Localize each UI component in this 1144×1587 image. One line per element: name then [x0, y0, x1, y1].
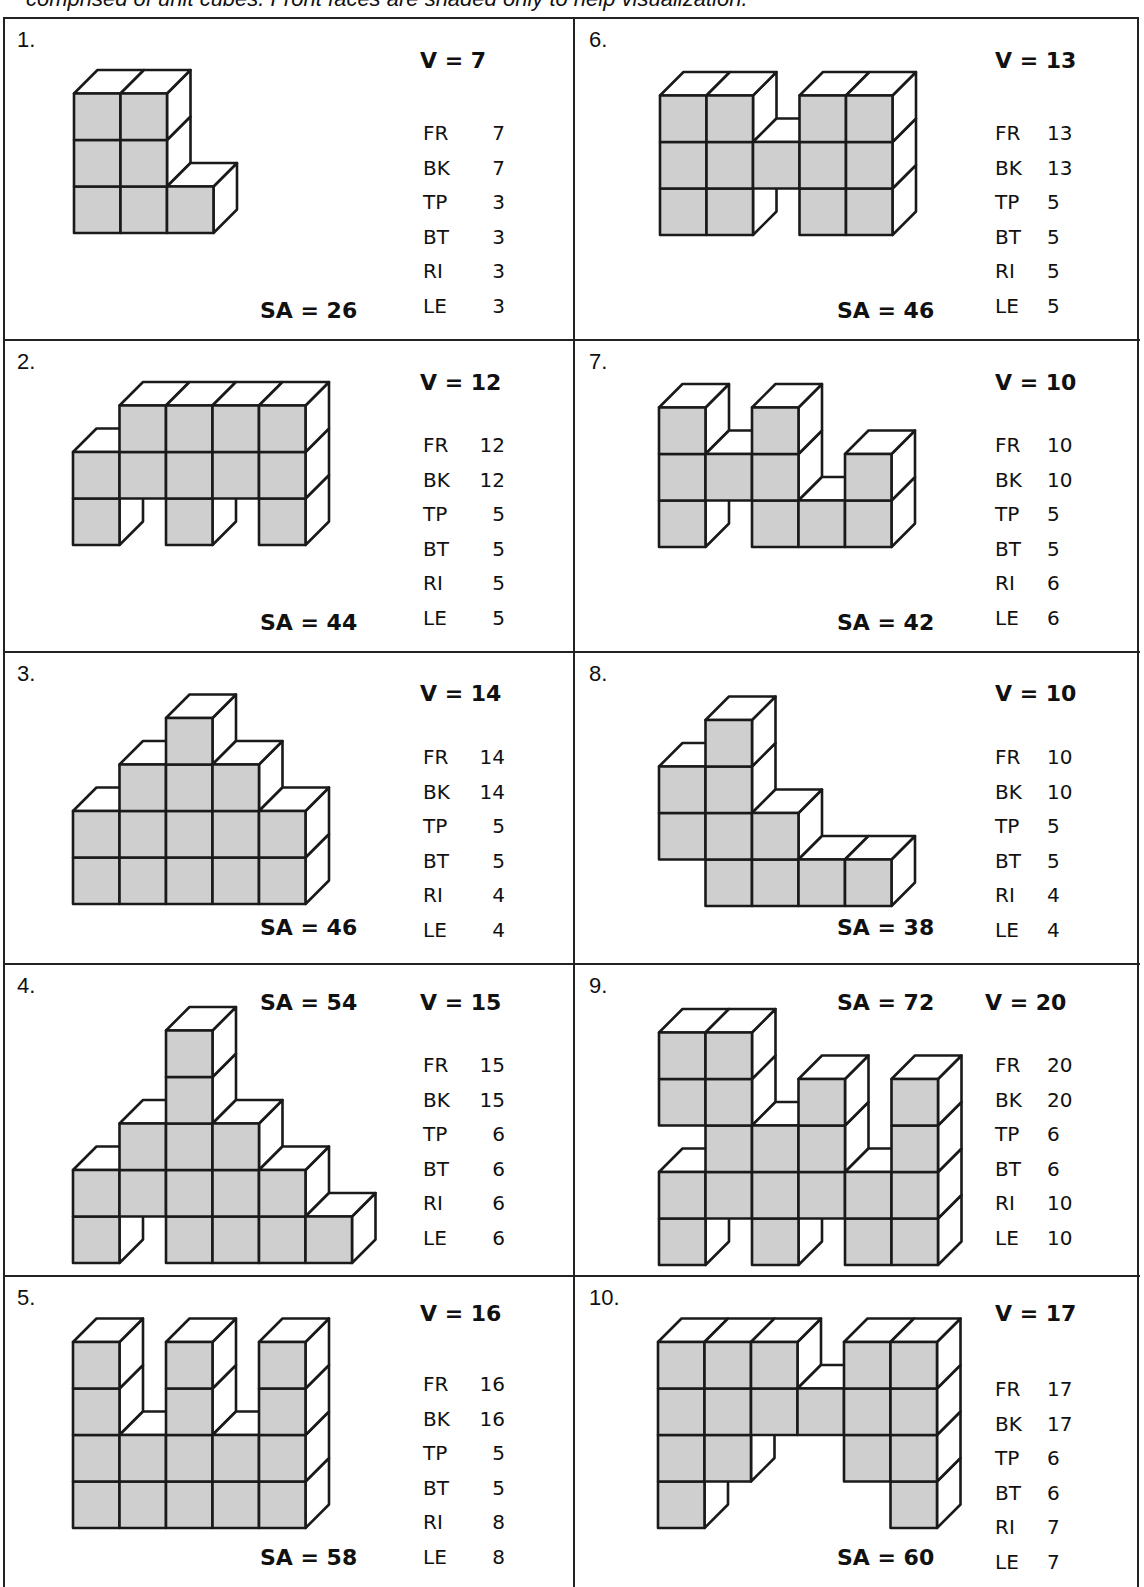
- cube-front-face: [706, 1172, 753, 1219]
- surface-area-label: SA = 54: [260, 990, 357, 1015]
- cube-front-face: [259, 1389, 306, 1436]
- face-value: 17: [1047, 1372, 1077, 1407]
- face-count-row: RI4: [995, 878, 1077, 913]
- face-count-row: FR10: [995, 740, 1077, 775]
- cube-front-face: [798, 1389, 845, 1436]
- cube-front-face: [259, 499, 306, 546]
- face-label: RI: [423, 566, 443, 601]
- face-count-row: TP5: [995, 497, 1077, 532]
- figure-cell-10: 10. V = 17 SA = 60 FR17BK17TP6BT6RI7LE7: [575, 1277, 1144, 1587]
- cube-front-face: [706, 1079, 753, 1126]
- face-count-row: LE5: [995, 289, 1077, 324]
- cube-front-face: [306, 1217, 353, 1264]
- face-label: BK: [995, 775, 1022, 810]
- face-count-row: LE5: [423, 601, 505, 636]
- face-value: 6: [1047, 1476, 1077, 1511]
- face-value: 4: [479, 913, 505, 948]
- face-label: TP: [423, 497, 447, 532]
- face-count-row: FR16: [423, 1367, 505, 1402]
- face-count-row: BK14: [423, 775, 505, 810]
- cube-front-face: [213, 858, 260, 905]
- cube-front-face: [706, 1126, 753, 1173]
- cube-front-face: [213, 1217, 260, 1264]
- surface-area-label: SA = 58: [260, 1545, 357, 1570]
- face-value: 5: [479, 601, 505, 636]
- face-count-row: LE7: [995, 1545, 1077, 1580]
- cube-front-face: [751, 1342, 798, 1389]
- face-label: TP: [995, 809, 1019, 844]
- face-label: BT: [995, 844, 1021, 879]
- cube-front-face: [120, 811, 167, 858]
- surface-area-label: SA = 46: [260, 915, 357, 940]
- face-value: 6: [479, 1117, 505, 1152]
- cube-front-face: [705, 1389, 752, 1436]
- face-label: RI: [995, 1510, 1015, 1545]
- cube-front-face: [74, 94, 121, 141]
- face-label: RI: [995, 1186, 1015, 1221]
- face-value: 5: [1047, 809, 1077, 844]
- cube-front-face: [658, 1482, 705, 1529]
- face-value: 13: [1047, 116, 1077, 151]
- face-count-row: BT6: [995, 1152, 1077, 1187]
- cube-front-face: [752, 454, 799, 501]
- face-counts: FR15BK15TP6BT6RI6LE6: [423, 1048, 505, 1256]
- face-count-row: BT5: [995, 532, 1077, 567]
- cube-front-face: [73, 1435, 120, 1482]
- face-label: TP: [423, 1117, 447, 1152]
- figure-cell-6: 6. V = 13 SA = 46 FR13BK13TP5BT5RI5LE5: [575, 19, 1144, 329]
- cube-front-face: [892, 1172, 939, 1219]
- figure-cell-2: 2. V = 12 SA = 44 FR12BK12TP5BT5RI5LE5: [3, 341, 573, 651]
- face-value: 10: [1047, 1186, 1077, 1221]
- face-label: BT: [423, 220, 449, 255]
- face-value: 5: [1047, 289, 1077, 324]
- face-label: LE: [423, 1221, 447, 1256]
- face-count-row: FR17: [995, 1372, 1077, 1407]
- face-value: 6: [1047, 1117, 1077, 1152]
- face-value: 8: [479, 1505, 505, 1540]
- face-label: BK: [423, 463, 450, 498]
- face-label: TP: [423, 185, 447, 220]
- cube-front-face: [259, 452, 306, 499]
- face-value: 10: [1047, 775, 1077, 810]
- surface-area-label: SA = 72: [837, 990, 934, 1015]
- cube-front-face: [166, 1217, 213, 1264]
- face-count-row: BK17: [995, 1407, 1077, 1442]
- face-count-row: BK16: [423, 1402, 505, 1437]
- cube-front-face: [213, 811, 260, 858]
- volume-label: V = 17: [995, 1301, 1076, 1326]
- face-value: 5: [1047, 220, 1077, 255]
- face-label: BK: [423, 1083, 450, 1118]
- face-value: 10: [1047, 463, 1077, 498]
- cube-front-face: [73, 811, 120, 858]
- surface-area-label: SA = 42: [837, 610, 934, 635]
- face-count-row: FR12: [423, 428, 505, 463]
- face-label: BT: [423, 844, 449, 879]
- face-count-row: RI5: [423, 566, 505, 601]
- face-label: BT: [423, 532, 449, 567]
- face-label: BT: [423, 1471, 449, 1506]
- cube-front-face: [167, 187, 214, 234]
- cube-front-face: [659, 1033, 706, 1080]
- cube-front-face: [259, 406, 306, 453]
- cube-front-face: [800, 142, 847, 189]
- face-count-row: BK10: [995, 463, 1077, 498]
- face-count-row: BK12: [423, 463, 505, 498]
- cube-front-face: [799, 501, 846, 548]
- face-value: 10: [1047, 1221, 1077, 1256]
- face-count-row: BT5: [423, 1471, 505, 1506]
- face-value: 6: [479, 1221, 505, 1256]
- face-count-row: BT5: [995, 220, 1077, 255]
- face-count-row: TP5: [423, 497, 505, 532]
- cube-front-face: [73, 1217, 120, 1264]
- face-value: 6: [479, 1186, 505, 1221]
- cube-front-face: [259, 811, 306, 858]
- cube-front-face: [120, 406, 167, 453]
- cube-front-face: [259, 1342, 306, 1389]
- cube-front-face: [752, 860, 799, 907]
- face-counts: FR20BK20TP6BT6RI10LE10: [995, 1048, 1077, 1256]
- face-label: RI: [995, 566, 1015, 601]
- face-label: RI: [423, 254, 443, 289]
- face-count-row: BK10: [995, 775, 1077, 810]
- cube-front-face: [706, 720, 753, 767]
- figure-cell-1: 1. V = 7 SA = 26 FR7BK7TP3BT3RI3LE3: [3, 19, 573, 329]
